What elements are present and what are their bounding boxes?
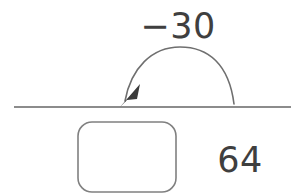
result-value-label: 64 (217, 140, 263, 180)
jump-amount-label: −30 (140, 6, 215, 46)
arrow-head-icon (120, 84, 140, 107)
diagram-canvas: −30 64 (0, 0, 291, 195)
jump-arc (125, 47, 234, 104)
number-line-diagram: −30 64 (0, 0, 291, 195)
answer-box[interactable] (78, 122, 176, 192)
